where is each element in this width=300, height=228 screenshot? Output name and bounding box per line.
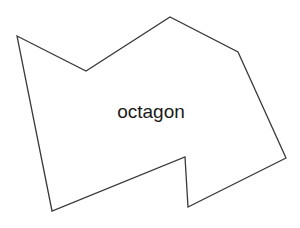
shape-canvas: octagon [0,0,300,228]
shape-drawing [0,0,300,228]
octagon-shape [17,17,286,211]
